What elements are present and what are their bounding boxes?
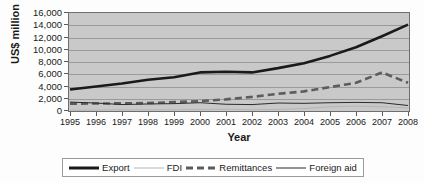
x-tick-mark xyxy=(356,112,357,116)
series-lines xyxy=(69,13,409,111)
x-tick-mark xyxy=(148,112,149,116)
legend-label: Remittances xyxy=(219,163,272,173)
legend-item-fdi[interactable]: FDI xyxy=(134,163,182,173)
legend-label: Export xyxy=(102,163,129,173)
line-chart: US$ million 16,00014,00012,00010,0008,00… xyxy=(0,0,424,183)
y-axis-tick-label: 0 xyxy=(18,106,62,115)
x-tick-mark xyxy=(70,112,71,116)
y-axis-tick-label: 8,000 xyxy=(18,57,62,66)
series-line-fdi xyxy=(70,106,408,110)
x-axis-tick-marks xyxy=(68,112,410,116)
y-axis-tick-label: 16,000 xyxy=(18,8,62,17)
y-axis-tick-label: 10,000 xyxy=(18,45,62,54)
y-axis-tick-label: 4,000 xyxy=(18,82,62,91)
plot-area xyxy=(68,12,410,112)
x-tick-mark xyxy=(252,112,253,116)
legend-swatch-icon xyxy=(276,164,306,172)
legend-swatch-icon xyxy=(186,164,216,172)
legend-label: Foreign aid xyxy=(309,163,357,173)
chart-legend: ExportFDIRemittancesForeign aid xyxy=(62,158,364,177)
x-tick-mark xyxy=(96,112,97,116)
y-axis-tick-label: 6,000 xyxy=(18,69,62,78)
y-axis-tick-label: 2,000 xyxy=(18,94,62,103)
legend-item-remittances[interactable]: Remittances xyxy=(186,163,272,173)
x-tick-mark xyxy=(408,112,409,116)
x-tick-mark xyxy=(122,112,123,116)
x-tick-mark xyxy=(226,112,227,116)
x-tick-mark xyxy=(200,112,201,116)
y-axis-tick-label: 12,000 xyxy=(18,33,62,42)
legend-swatch-icon xyxy=(69,164,99,172)
legend-swatch-icon xyxy=(134,164,164,172)
y-axis-tick-labels: 16,00014,00012,00010,0008,0006,0004,0002… xyxy=(18,7,64,117)
x-axis-tick-label: 2008 xyxy=(391,117,424,127)
x-axis-tick-labels: 1995199619971998199920002001200220032004… xyxy=(68,117,410,129)
x-tick-mark xyxy=(278,112,279,116)
x-tick-mark xyxy=(330,112,331,116)
series-line-export xyxy=(70,25,408,90)
x-tick-mark xyxy=(304,112,305,116)
x-tick-mark xyxy=(174,112,175,116)
x-tick-mark xyxy=(382,112,383,116)
y-axis-tick-label: 14,000 xyxy=(18,20,62,29)
series-line-remittances xyxy=(70,72,408,103)
legend-label: FDI xyxy=(167,163,182,173)
x-axis-title: Year xyxy=(0,131,424,143)
legend-item-export[interactable]: Export xyxy=(69,163,129,173)
legend-item-foreign-aid[interactable]: Foreign aid xyxy=(276,163,357,173)
